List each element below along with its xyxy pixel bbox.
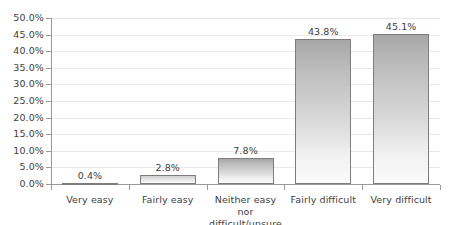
y-axis-tick-label: 35.0% (0, 63, 44, 73)
bar (140, 175, 196, 184)
y-axis-tick (46, 101, 51, 102)
bar-value-label: 2.8% (129, 162, 207, 173)
bar (373, 34, 429, 184)
x-axis-category-label: Very easy (51, 194, 129, 206)
x-axis-category-label: Fairly easy (129, 194, 207, 206)
x-axis-category-label: Very difficult (362, 194, 440, 206)
x-axis-category-label-line: Fairly difficult (284, 194, 362, 206)
y-axis-tick-label: 0.0% (0, 179, 44, 189)
y-axis-tick-label: 15.0% (0, 129, 44, 139)
bar-value-label: 0.4% (51, 170, 129, 181)
y-axis-tick (46, 151, 51, 152)
bar (62, 183, 118, 185)
x-axis-category-label-line: Very difficult (362, 194, 440, 206)
y-axis-line (51, 18, 52, 185)
bar (218, 158, 274, 184)
gridline (51, 18, 440, 19)
y-axis-tick-label: 50.0% (0, 13, 44, 23)
bar (295, 39, 351, 184)
y-axis-tick (46, 134, 51, 135)
bar-chart: 0.0%5.0%10.0%15.0%20.0%25.0%30.0%35.0%40… (0, 0, 459, 225)
x-axis-tick (129, 185, 130, 190)
y-axis-tick-label: 10.0% (0, 146, 44, 156)
bar-value-label: 45.1% (362, 21, 440, 32)
x-axis-category-label-line: difficult/unsure (207, 218, 285, 225)
bar-value-label: 43.8% (284, 26, 362, 37)
x-axis-category-label: Fairly difficult (284, 194, 362, 206)
y-axis-tick-label: 20.0% (0, 113, 44, 123)
x-axis-category-label: Neither easy nordifficult/unsure (207, 194, 285, 225)
y-axis-tick (46, 51, 51, 52)
y-axis-tick (46, 118, 51, 119)
x-axis-tick (362, 185, 363, 190)
x-axis-category-label-line: Fairly easy (129, 194, 207, 206)
y-axis-tick-label: 5.0% (0, 162, 44, 172)
y-axis-tick-label: 25.0% (0, 96, 44, 106)
bar-value-label: 7.8% (207, 145, 285, 156)
y-axis-tick-label: 45.0% (0, 30, 44, 40)
y-axis-tick (46, 18, 51, 19)
y-axis-tick-label: 30.0% (0, 79, 44, 89)
y-axis-tick (46, 167, 51, 168)
y-axis-tick (46, 68, 51, 69)
x-axis-tick (207, 185, 208, 190)
x-axis-tick (440, 185, 441, 190)
y-axis-tick (46, 35, 51, 36)
y-axis-tick-label: 40.0% (0, 46, 44, 56)
x-axis-tick (51, 185, 52, 190)
y-axis-tick (46, 84, 51, 85)
x-axis-tick (284, 185, 285, 190)
x-axis-category-label-line: Neither easy nor (207, 194, 285, 218)
x-axis-category-label-line: Very easy (51, 194, 129, 206)
